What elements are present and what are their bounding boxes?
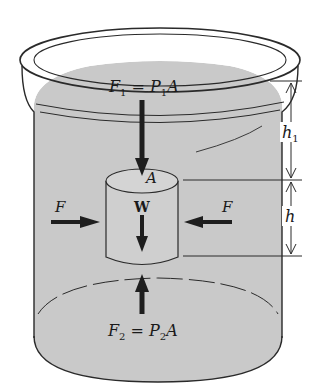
top-force-arrow-shaft — [140, 100, 145, 162]
bottom-force-label: F2 = P2A — [107, 321, 178, 342]
right-force-label: F — [221, 198, 233, 216]
right-force-arrow-shaft — [200, 220, 232, 224]
weight-arrow-shaft — [140, 215, 144, 239]
left-force-arrow-shaft — [51, 220, 83, 224]
diagram-canvas: F1 = P1A A W F F F2 = P2A h1 h — [0, 0, 323, 388]
top-force-label: F1 = P1A — [108, 77, 179, 98]
h-label: h — [285, 207, 295, 226]
weight-label: W — [133, 199, 150, 215]
left-force-label: F — [54, 198, 66, 216]
bottom-force-arrow-shaft — [140, 290, 145, 314]
area-label: A — [144, 169, 157, 187]
buoyancy-diagram: F1 = P1A A W F F F2 = P2A h1 h — [0, 0, 323, 388]
